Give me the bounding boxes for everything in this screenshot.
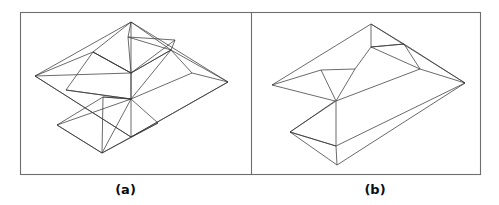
mesh-edge (131, 50, 192, 99)
mesh-edge (131, 99, 158, 137)
figure-svg (0, 0, 499, 205)
mesh-edge (128, 37, 131, 73)
mesh-edge (192, 73, 228, 82)
mesh-edge (93, 50, 171, 73)
figure-container: (a) (b) (0, 0, 499, 205)
mesh-edge (131, 82, 228, 137)
panel-b-caption: (b) (251, 182, 499, 197)
mesh-edge (336, 69, 420, 101)
mesh-edge (371, 44, 404, 47)
mesh-edge (35, 22, 228, 137)
mesh-edge (272, 70, 336, 101)
mesh-edge (102, 97, 103, 153)
mesh-edge (57, 97, 131, 153)
mesh-edge (35, 73, 131, 76)
panel-b-drawing (272, 24, 465, 165)
mesh-edge (336, 83, 465, 146)
mesh-edge (290, 101, 336, 132)
mesh-edge (355, 47, 371, 69)
mesh-edge (290, 132, 337, 165)
mesh-edge (57, 125, 102, 153)
mesh-edge (66, 90, 131, 99)
mesh-edge (290, 132, 336, 146)
mesh-edge (321, 69, 355, 101)
mesh-edge (35, 76, 131, 137)
mesh-edge (131, 50, 171, 99)
panel-a-drawing (35, 22, 228, 153)
mesh-edge (272, 24, 371, 146)
mesh-edge (171, 50, 228, 82)
panel-a-caption: (a) (0, 182, 251, 197)
mesh-edge (93, 22, 171, 73)
mesh-edge (337, 83, 465, 165)
mesh-edge (93, 52, 131, 73)
mesh-edge (131, 40, 175, 73)
mesh-edge (420, 69, 465, 83)
